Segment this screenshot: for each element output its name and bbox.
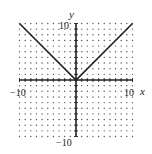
x-min-tick-label: −10 bbox=[10, 87, 26, 98]
graph: y x 10 −10 −10 10 bbox=[0, 0, 152, 154]
x-axis-label: x bbox=[139, 85, 145, 97]
y-min-tick-label: −10 bbox=[56, 137, 72, 148]
y-max-tick-label: 10 bbox=[59, 20, 69, 31]
y-axis-label: y bbox=[68, 8, 74, 20]
x-max-tick-label: 10 bbox=[124, 87, 134, 98]
